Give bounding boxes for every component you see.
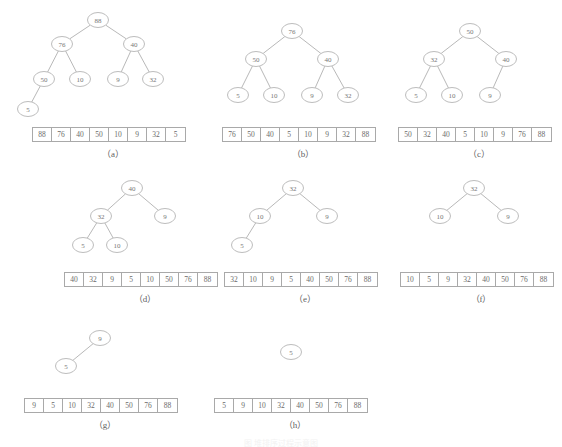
node-circle bbox=[430, 209, 451, 224]
array-cell: 76 bbox=[223, 128, 242, 141]
array-cell: 32 bbox=[82, 399, 101, 412]
panel-label-d: （d） bbox=[64, 292, 226, 305]
array-cell: 40 bbox=[437, 128, 456, 141]
array-cell: 88 bbox=[158, 399, 177, 412]
array-cell: 40 bbox=[71, 128, 90, 141]
tree-edge bbox=[246, 223, 255, 238]
tree-edge bbox=[32, 86, 41, 102]
tree-node: 5 bbox=[232, 238, 253, 253]
tree-node: 9 bbox=[155, 209, 176, 224]
tree-node: 32 bbox=[338, 88, 359, 103]
array-cell: 76 bbox=[329, 399, 348, 412]
array-h: 59103240507688 bbox=[214, 398, 368, 413]
array-cell: 88 bbox=[358, 273, 377, 286]
node-circle bbox=[406, 88, 427, 103]
node-value: 32 bbox=[345, 92, 353, 100]
panel-label-b: （b） bbox=[222, 147, 384, 160]
array-cell: 10 bbox=[475, 128, 494, 141]
tree-edge bbox=[477, 37, 499, 54]
panel-label-c: （c） bbox=[398, 147, 560, 160]
array-cell: 32 bbox=[84, 273, 103, 286]
tree-edge bbox=[105, 223, 113, 238]
array-cell: 5 bbox=[282, 273, 301, 286]
array-cell: 50 bbox=[160, 273, 179, 286]
array-cell: 10 bbox=[109, 128, 128, 141]
array-cell: 5 bbox=[44, 399, 63, 412]
tree-edge bbox=[447, 194, 467, 211]
tree-edge bbox=[242, 66, 253, 88]
array-cell: 32 bbox=[418, 128, 437, 141]
array-cell: 9 bbox=[234, 399, 253, 412]
tree-node: 5 bbox=[406, 88, 427, 103]
tree-node: 9 bbox=[480, 88, 501, 103]
array-cell: 9 bbox=[25, 399, 44, 412]
array-cell: 10 bbox=[253, 399, 272, 412]
node-circle bbox=[464, 181, 485, 196]
tree-node: 10 bbox=[430, 209, 451, 224]
array-cell: 5 bbox=[122, 273, 141, 286]
tree-node: 10 bbox=[70, 72, 91, 87]
array-cell: 40 bbox=[291, 399, 310, 412]
node-circle bbox=[246, 52, 267, 67]
array-cell: 50 bbox=[310, 399, 329, 412]
node-value: 10 bbox=[257, 213, 265, 221]
node-value: 88 bbox=[95, 17, 103, 25]
array-cell: 88 bbox=[348, 399, 367, 412]
tree-node: 5 bbox=[73, 238, 94, 253]
tree-edge bbox=[73, 344, 93, 361]
tree-node: 10 bbox=[264, 88, 285, 103]
array-cell: 40 bbox=[65, 273, 84, 286]
array-cell: 5 bbox=[215, 399, 234, 412]
node-circle bbox=[143, 72, 164, 87]
node-value: 10 bbox=[437, 213, 445, 221]
node-circle bbox=[88, 13, 109, 28]
array-cell: 32 bbox=[272, 399, 291, 412]
array-f: 10593240507688 bbox=[400, 272, 554, 287]
node-value: 5 bbox=[289, 349, 293, 357]
node-value: 9 bbox=[488, 92, 492, 100]
node-value: 40 bbox=[129, 185, 137, 193]
node-circle bbox=[122, 181, 143, 196]
array-cell: 40 bbox=[261, 128, 280, 141]
node-value: 32 bbox=[98, 213, 106, 221]
array-cell: 32 bbox=[225, 273, 244, 286]
array-cell: 88 bbox=[356, 128, 375, 141]
array-cell: 32 bbox=[337, 128, 356, 141]
array-cell: 9 bbox=[494, 128, 513, 141]
node-circle bbox=[34, 72, 55, 87]
node-circle bbox=[424, 52, 445, 67]
node-circle bbox=[91, 209, 112, 224]
tree-node: 50 bbox=[246, 52, 267, 67]
array-e: 32109540507688 bbox=[224, 272, 378, 287]
tree-node: 76 bbox=[52, 37, 73, 52]
tree-edge bbox=[300, 194, 320, 211]
tree-node: 76 bbox=[282, 24, 303, 39]
tree-node: 9 bbox=[498, 209, 519, 224]
node-value: 9 bbox=[325, 213, 329, 221]
node-circle bbox=[282, 24, 303, 39]
array-cell: 5 bbox=[420, 273, 439, 286]
tree-edge bbox=[108, 194, 126, 210]
tree-edge bbox=[441, 37, 463, 54]
array-g: 95103240507688 bbox=[24, 398, 178, 413]
tree-node: 88 bbox=[88, 13, 109, 28]
node-value: 40 bbox=[325, 56, 333, 64]
array-cell: 5 bbox=[280, 128, 299, 141]
node-value: 76 bbox=[289, 28, 297, 36]
tree-node: 40 bbox=[124, 37, 145, 52]
array-cell: 40 bbox=[477, 273, 496, 286]
tree-node: 40 bbox=[122, 181, 143, 196]
panel-label-e: （e） bbox=[224, 292, 386, 305]
node-value: 40 bbox=[503, 56, 511, 64]
tree-node: 50 bbox=[34, 72, 55, 87]
node-circle bbox=[498, 209, 519, 224]
array-cell: 50 bbox=[90, 128, 109, 141]
array-cell: 88 bbox=[198, 273, 217, 286]
array-cell: 76 bbox=[515, 273, 534, 286]
node-value: 5 bbox=[236, 92, 240, 100]
node-circle bbox=[317, 209, 338, 224]
node-value: 9 bbox=[116, 76, 120, 84]
array-cell: 9 bbox=[263, 273, 282, 286]
array-cell: 9 bbox=[439, 273, 458, 286]
tree-edge bbox=[332, 66, 344, 88]
